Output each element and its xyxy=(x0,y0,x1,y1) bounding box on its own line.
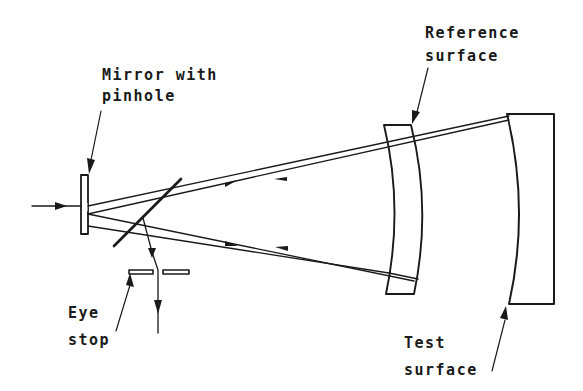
svg-text:surface: surface xyxy=(404,361,478,379)
ray-arrow-out-lower xyxy=(225,241,238,246)
eye-stop xyxy=(129,270,189,274)
label-reference-surface: Reference surface xyxy=(425,24,520,65)
input-beam-arrow xyxy=(32,202,81,210)
svg-text:surface: surface xyxy=(425,47,499,65)
svg-text:Test: Test xyxy=(404,334,446,352)
ray-arrow-back-upper xyxy=(274,177,287,181)
test-surface xyxy=(507,114,554,304)
leader-mirror xyxy=(87,111,101,174)
ray-arrow-back-lower xyxy=(275,246,288,251)
optical-diagram: Mirror with pinhole Reference surface Ey… xyxy=(0,0,583,391)
ray-paths xyxy=(88,116,509,281)
label-test-surface: Test surface xyxy=(404,334,478,379)
svg-text:Reference: Reference xyxy=(425,24,520,42)
label-eye-stop: Eye stop xyxy=(68,304,110,349)
label-mirror-with-pinhole: Mirror with pinhole xyxy=(102,66,218,105)
reference-surface xyxy=(384,125,422,294)
leader-test xyxy=(492,306,508,371)
leader-reference xyxy=(412,68,428,124)
svg-text:stop: stop xyxy=(68,331,110,349)
mirror-with-pinhole xyxy=(81,175,88,234)
leader-eye-stop xyxy=(116,273,134,331)
svg-text:Mirror with: Mirror with xyxy=(102,66,218,84)
svg-text:Eye: Eye xyxy=(68,304,100,322)
svg-text:pinhole: pinhole xyxy=(102,87,176,105)
